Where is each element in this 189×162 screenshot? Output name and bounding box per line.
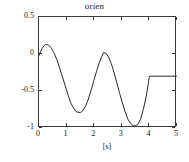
x-tick-label: 4 [138,130,158,138]
y-tick-label: -1 [0,123,34,131]
figure-canvas: orien 0.50-0.5-1 012345 [rad] [s] [0,0,189,162]
x-tick-label: 2 [83,130,103,138]
data-series-orien [39,17,177,128]
plot-axes-box [38,16,176,127]
y-tick-label: -0.5 [0,86,34,94]
chart-title: orien [0,1,189,12]
x-axis-label: [s] [38,142,176,151]
x-tick-label: 3 [111,130,131,138]
x-tick-label: 0 [28,130,48,138]
x-tick-label: 5 [166,130,186,138]
y-tick-label: 0 [0,49,34,57]
x-tick-label: 1 [56,130,76,138]
y-tick-label: 0.5 [0,12,34,20]
